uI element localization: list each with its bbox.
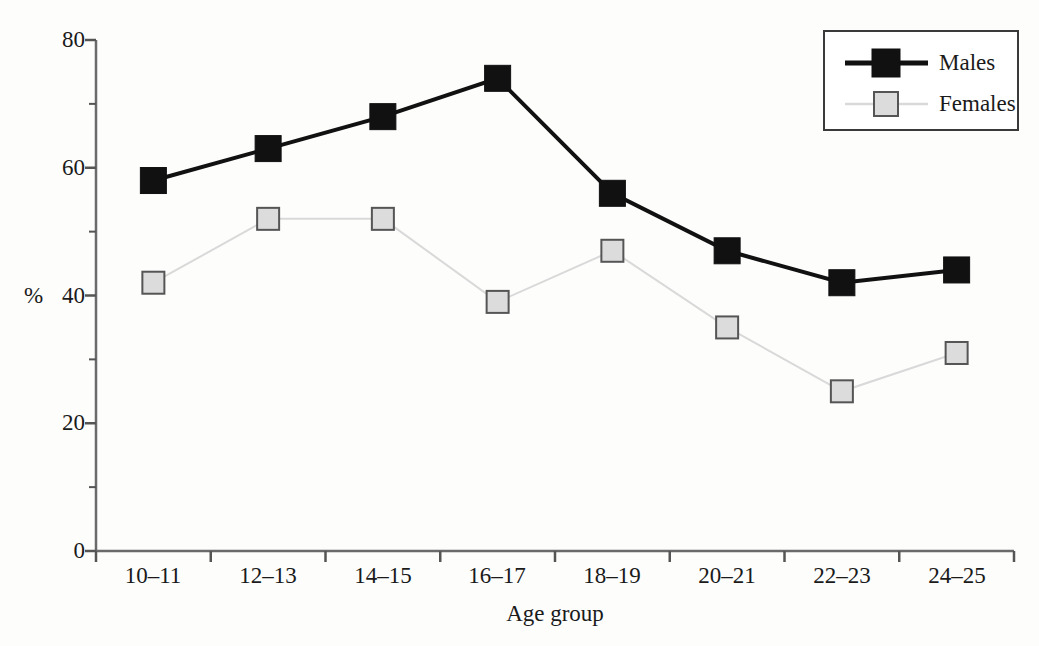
data-point-females-1 <box>257 208 279 230</box>
x-tick-label-0: 10–11 <box>125 563 182 589</box>
data-point-males-0 <box>140 168 166 194</box>
data-point-females-0 <box>142 272 164 294</box>
data-point-females-7 <box>946 342 968 364</box>
x-axis-ticks <box>96 551 1014 562</box>
x-tick-label-5: 20–21 <box>698 563 756 589</box>
x-tick-label-6: 22–23 <box>813 563 871 589</box>
legend-swatch-males <box>872 49 900 77</box>
x-tick-label-4: 18–19 <box>583 563 641 589</box>
legend-label-males: Males <box>939 50 995 76</box>
x-axis-title: Age group <box>506 601 604 627</box>
data-point-males-6 <box>829 270 855 296</box>
series-markers-females <box>142 208 967 402</box>
data-point-males-2 <box>370 104 396 130</box>
data-point-males-5 <box>714 238 740 264</box>
x-tick-label-7: 24–25 <box>928 563 986 589</box>
data-point-males-3 <box>485 65 511 91</box>
line-chart-plot <box>0 0 1039 646</box>
y-tick-label-60: 60 <box>30 155 85 181</box>
data-point-males-4 <box>599 180 625 206</box>
series-line-females <box>153 219 956 391</box>
legend-swatch-females <box>874 92 898 116</box>
data-point-females-6 <box>831 380 853 402</box>
x-tick-label-1: 12–13 <box>239 563 297 589</box>
data-point-females-4 <box>601 240 623 262</box>
data-point-males-1 <box>255 136 281 162</box>
x-tick-label-3: 16–17 <box>468 563 526 589</box>
data-point-females-2 <box>372 208 394 230</box>
data-point-males-7 <box>944 257 970 283</box>
y-tick-label-0: 0 <box>30 538 85 564</box>
legend-label-females: Females <box>939 91 1016 117</box>
chart-figure: 80 60 40 20 0 % 10–11 12–13 14–15 16–17 … <box>0 0 1039 646</box>
y-tick-label-20: 20 <box>30 410 85 436</box>
y-axis-major-ticks <box>85 40 96 551</box>
x-tick-label-2: 14–15 <box>354 563 412 589</box>
y-axis-title: % <box>24 283 43 309</box>
data-point-females-5 <box>716 316 738 338</box>
y-tick-label-80: 80 <box>30 27 85 53</box>
data-point-females-3 <box>487 291 509 313</box>
